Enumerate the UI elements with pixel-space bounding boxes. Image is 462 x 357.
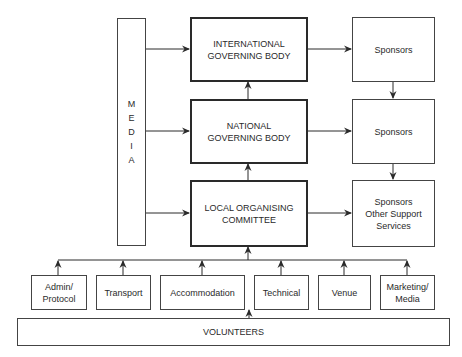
- box-label: NATIONAL GOVERNING BODY: [207, 120, 290, 144]
- national-governing-body-box: NATIONAL GOVERNING BODY: [190, 99, 308, 164]
- media-letter: M: [128, 97, 136, 111]
- media-letter: D: [128, 125, 135, 139]
- sponsors-box-2: Sponsors: [352, 99, 435, 164]
- sponsors-support-services-box: Sponsors Other Support Services: [352, 180, 435, 247]
- box-label: LOCAL ORGANISING COMMITTEE: [204, 202, 293, 226]
- venue-box: Venue: [318, 275, 371, 310]
- box-label: Sponsors Other Support Services: [365, 196, 422, 232]
- media-box: M E D I A: [117, 18, 146, 246]
- transport-box: Transport: [96, 275, 151, 310]
- box-label: Sponsors: [374, 126, 412, 138]
- admin-protocol-box: Admin/ Protocol: [31, 275, 87, 310]
- media-letter: I: [130, 139, 133, 153]
- media-letter: E: [128, 111, 134, 125]
- box-label: Admin/ Protocol: [42, 281, 75, 305]
- box-label: VOLUNTEERS: [203, 326, 264, 338]
- box-label: Transport: [104, 287, 142, 299]
- accommodation-box: Accommodation: [160, 275, 245, 310]
- box-label: Marketing/ Media: [386, 281, 428, 305]
- technical-box: Technical: [254, 275, 309, 310]
- marketing-media-box: Marketing/ Media: [380, 275, 435, 310]
- box-label: Sponsors: [374, 44, 412, 56]
- international-governing-body-box: INTERNATIONAL GOVERNING BODY: [190, 17, 308, 82]
- box-label: Venue: [332, 287, 358, 299]
- box-label: Technical: [263, 287, 301, 299]
- media-letter: A: [128, 153, 134, 167]
- box-label: Accommodation: [170, 287, 235, 299]
- box-label: INTERNATIONAL GOVERNING BODY: [207, 38, 290, 62]
- volunteers-box: VOLUNTEERS: [17, 318, 450, 346]
- local-organising-committee-box: LOCAL ORGANISING COMMITTEE: [190, 180, 308, 247]
- sponsors-box-1: Sponsors: [352, 17, 435, 82]
